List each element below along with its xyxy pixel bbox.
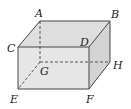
vertex-label-D: D [79, 36, 89, 49]
vertex-label-B: B [110, 8, 119, 21]
rectangular-prism-diagram: A B C D E F G H [0, 0, 131, 109]
vertex-label-F: F [85, 93, 94, 106]
vertex-label-G: G [40, 65, 49, 78]
front-face [18, 47, 89, 89]
vertex-label-C: C [7, 42, 16, 55]
vertex-label-A: A [34, 7, 43, 20]
vertex-label-E: E [9, 93, 18, 106]
vertex-label-H: H [112, 59, 123, 72]
